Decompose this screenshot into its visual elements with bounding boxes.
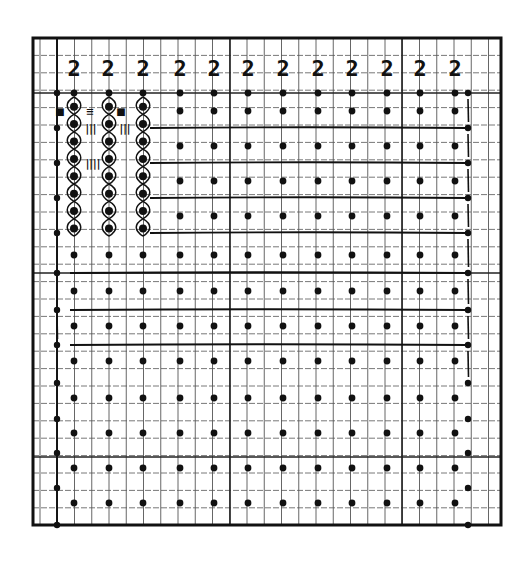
stitch-dot <box>211 108 218 115</box>
header-two-glyph: 2 <box>173 56 186 81</box>
stitch-dot <box>211 500 218 507</box>
stitch-dot <box>417 178 424 185</box>
stitch-dot <box>211 252 218 259</box>
cable-bead <box>70 103 78 111</box>
stitch-dot <box>349 395 356 402</box>
stitch-dot <box>106 288 113 295</box>
cable-bead <box>70 138 78 146</box>
stitch-dot <box>106 465 113 472</box>
stitch-dot <box>140 323 147 330</box>
stitch-dot <box>211 213 218 220</box>
stitch-dot <box>177 178 184 185</box>
stitch-annotations: ■≡■|||||||||| <box>55 106 130 170</box>
stitch-dot <box>140 465 147 472</box>
stitch-dot <box>140 288 147 295</box>
cable-bead <box>70 120 78 128</box>
cable-bead <box>70 172 78 180</box>
stitch-dot <box>177 143 184 150</box>
cable-bead <box>105 172 113 180</box>
stitch-dot <box>106 90 113 97</box>
cable-bead <box>70 190 78 198</box>
stitch-dot <box>315 252 322 259</box>
right-edge-dot <box>465 230 471 236</box>
stitch-dot <box>349 178 356 185</box>
stitch-dot <box>177 90 184 97</box>
stitch-dot <box>384 143 391 150</box>
stitch-dot <box>417 213 424 220</box>
carry-line <box>150 197 468 198</box>
stitch-dot <box>211 143 218 150</box>
stitch-dot <box>280 143 287 150</box>
stitch-dot <box>349 90 356 97</box>
stitch-dot <box>315 143 322 150</box>
stitch-annotation: ||| <box>86 123 97 135</box>
left-edge-dot <box>54 90 60 96</box>
stitch-dot <box>452 500 459 507</box>
cable-bead <box>139 190 147 198</box>
stitch-dot <box>140 500 147 507</box>
stitch-dot <box>315 430 322 437</box>
stitch-dot <box>349 323 356 330</box>
stitch-dot <box>384 323 391 330</box>
stitch-dot <box>452 178 459 185</box>
left-edge-dot <box>54 307 60 313</box>
carry-line <box>150 162 468 163</box>
stitch-dot <box>417 288 424 295</box>
stitch-dot <box>211 395 218 402</box>
stitch-dot <box>452 213 459 220</box>
stitch-dot <box>452 358 459 365</box>
stitch-dot <box>106 430 113 437</box>
left-edge-dot <box>54 380 60 386</box>
header-two-glyph: 2 <box>101 56 114 81</box>
edge-vertical-line <box>468 239 469 267</box>
stitch-dot <box>384 358 391 365</box>
stitch-dot <box>349 465 356 472</box>
stitch-dot <box>384 395 391 402</box>
cable-bead <box>139 103 147 111</box>
cable-bead <box>105 155 113 163</box>
stitch-dot <box>417 465 424 472</box>
stitch-dot <box>280 90 287 97</box>
cable-bead <box>105 138 113 146</box>
stitch-dot <box>245 143 252 150</box>
right-edge-dot <box>465 160 471 166</box>
stitch-dot <box>280 288 287 295</box>
stitch-dot <box>177 430 184 437</box>
carry-line <box>150 232 468 233</box>
stitch-dot <box>315 395 322 402</box>
stitch-dot <box>245 395 252 402</box>
stitch-dot <box>245 178 252 185</box>
stitch-dot <box>71 288 78 295</box>
stitch-dot <box>315 500 322 507</box>
header-two-glyph: 2 <box>67 56 80 81</box>
right-edge-dot <box>465 307 471 313</box>
grid-lines <box>33 38 501 525</box>
stitch-dot <box>245 465 252 472</box>
stitch-dot <box>417 323 424 330</box>
stitch-dot <box>417 90 424 97</box>
stitch-dot <box>177 213 184 220</box>
stitch-dot <box>417 430 424 437</box>
right-edge-dot <box>465 270 471 276</box>
stitch-dot <box>315 358 322 365</box>
cable-bead <box>70 225 78 233</box>
stitch-dot <box>245 213 252 220</box>
stitch-dot <box>280 178 287 185</box>
cable-twist <box>136 97 150 236</box>
stitch-annotation: ■ <box>116 106 125 117</box>
stitch-annotation: ■ <box>55 106 64 117</box>
cable-twist <box>67 97 81 236</box>
stitch-dot <box>452 430 459 437</box>
right-edge-dot <box>465 450 471 456</box>
right-edge-dot <box>465 195 471 201</box>
stitch-dot <box>140 90 147 97</box>
stitch-dot <box>211 90 218 97</box>
edge-vertical-line <box>468 351 469 377</box>
carry-line <box>70 272 468 273</box>
stitch-dot <box>315 288 322 295</box>
stitch-dot <box>280 108 287 115</box>
stitch-dot <box>384 252 391 259</box>
stitch-dot <box>349 108 356 115</box>
stitch-dot <box>349 358 356 365</box>
edge-vertical-line <box>468 204 469 227</box>
